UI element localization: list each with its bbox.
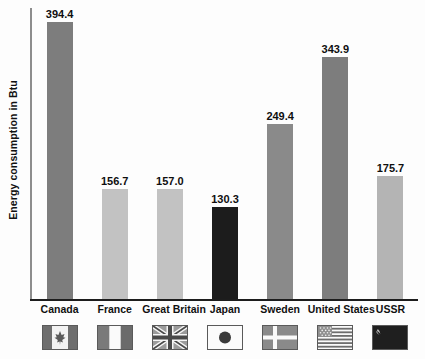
category-label-great-britain: Great Britain: [142, 303, 197, 315]
flag-canada-icon: [42, 325, 78, 350]
x-axis-line: [30, 299, 418, 301]
bar-value-label: 175.7: [377, 162, 405, 174]
flag-cell: [197, 325, 252, 350]
flag-cell: [32, 325, 87, 350]
category-label-ussr: USSR: [363, 303, 418, 315]
plot-area: 394.4156.7157.0130.3249.4343.9175.7: [32, 8, 418, 299]
bar-value-label: 394.4: [46, 8, 74, 20]
bar-group: 249.4: [267, 8, 293, 299]
bar-value-label: 156.7: [101, 175, 129, 187]
flag-row: [32, 325, 418, 355]
bar-value-label: 343.9: [322, 43, 350, 55]
bar-value-label: 130.3: [211, 193, 239, 205]
bar[interactable]: [157, 189, 183, 299]
bar-value-label: 157.0: [156, 175, 184, 187]
flag-cell: [253, 325, 308, 350]
flag-great-britain-icon: [152, 325, 188, 350]
flag-ussr-icon: [372, 325, 408, 350]
bar[interactable]: [102, 189, 128, 299]
y-axis-title-text: Energy consumption in Btu: [7, 80, 19, 220]
flag-france-icon: [97, 325, 133, 350]
bar-group: 157.0: [157, 8, 183, 299]
bar[interactable]: [377, 176, 403, 299]
bar-group: 175.7: [377, 8, 403, 299]
bar-chart: Energy consumption in Btu 394.4156.7157.…: [0, 0, 425, 359]
category-labels: CanadaFranceGreat BritainJapanSwedenUnit…: [32, 303, 418, 321]
y-axis-title: Energy consumption in Btu: [2, 0, 24, 300]
bar-group: 394.4: [47, 8, 73, 299]
flag-cell: [363, 325, 418, 350]
flag-cell: [308, 325, 363, 350]
flag-sweden-icon: [262, 325, 298, 350]
flag-united-states-icon: [317, 325, 353, 350]
bar[interactable]: [47, 22, 73, 299]
category-label-japan: Japan: [197, 303, 252, 315]
bar-value-label: 249.4: [266, 110, 294, 122]
bar-group: 156.7: [102, 8, 128, 299]
category-label-united-states: United States: [308, 303, 363, 315]
flag-cell: [87, 325, 142, 350]
category-label-sweden: Sweden: [253, 303, 308, 315]
flag-cell: [142, 325, 197, 350]
category-label-france: France: [87, 303, 142, 315]
bar[interactable]: [322, 57, 348, 299]
flag-japan-icon: [207, 325, 243, 350]
category-label-canada: Canada: [32, 303, 87, 315]
bar[interactable]: [212, 207, 238, 299]
bar-group: 130.3: [212, 8, 238, 299]
bar-group: 343.9: [322, 8, 348, 299]
bar[interactable]: [267, 124, 293, 299]
